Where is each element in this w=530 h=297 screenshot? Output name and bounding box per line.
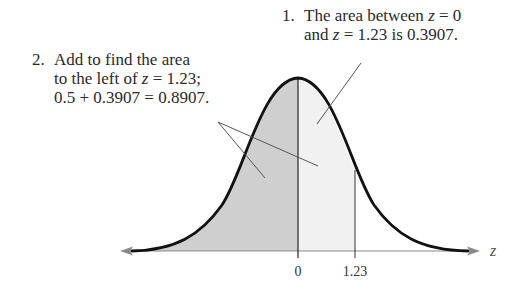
- leader-line-step-1: [317, 63, 361, 124]
- middle-shaded-area: [298, 78, 355, 251]
- tick-label-0: 0: [295, 264, 302, 279]
- left-shaded-area: [130, 78, 298, 251]
- axis-label-z: z: [489, 242, 497, 259]
- tick-label-1-23: 1.23: [343, 264, 368, 279]
- normal-curve-diagram: 0 1.23 z: [0, 0, 530, 297]
